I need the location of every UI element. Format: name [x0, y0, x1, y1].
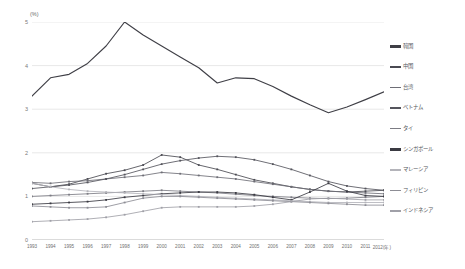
data-point-marker — [365, 196, 367, 198]
data-point-marker — [309, 198, 311, 200]
data-point-marker — [161, 154, 163, 156]
data-point-marker — [87, 182, 89, 184]
data-point-marker — [328, 181, 330, 183]
data-point-marker — [216, 191, 218, 193]
line-chart: (%) 543210 19931994199519961997199819992… — [0, 0, 465, 269]
data-point-marker — [124, 202, 126, 204]
data-point-marker — [272, 196, 274, 198]
data-point-marker — [142, 168, 144, 170]
data-point-marker — [272, 200, 274, 202]
legend-item-label: タイ — [403, 126, 413, 131]
series-line — [32, 156, 384, 190]
y-axis-tick-label: 1 — [25, 193, 28, 199]
series-line — [32, 183, 384, 202]
data-point-marker — [87, 201, 89, 203]
data-point-marker — [365, 192, 367, 194]
legend-color-swatch — [390, 148, 401, 151]
data-point-marker — [50, 206, 52, 208]
data-point-marker — [179, 156, 181, 158]
data-point-marker — [346, 202, 348, 204]
x-axis-tick-label: 2003 — [212, 244, 222, 249]
legend-color-swatch — [390, 169, 401, 171]
legend-item[interactable]: マレーシア — [390, 160, 465, 181]
x-axis-tick-label: 1998 — [120, 244, 130, 249]
data-point-marker — [365, 188, 367, 190]
data-point-marker — [328, 190, 330, 192]
y-axis-tick-label: 0 — [25, 237, 28, 243]
legend-item[interactable]: フィリピン — [390, 180, 465, 201]
data-point-marker — [346, 198, 348, 200]
data-point-marker — [124, 192, 126, 194]
data-point-marker — [87, 178, 89, 180]
data-point-marker — [68, 194, 70, 196]
legend-color-swatch — [390, 107, 401, 110]
data-point-marker — [235, 174, 237, 176]
x-axis-tick-label: 2006 — [268, 244, 278, 249]
data-point-marker — [87, 193, 89, 195]
data-point-marker — [253, 205, 255, 207]
data-point-marker — [105, 206, 107, 208]
data-point-marker — [105, 216, 107, 218]
x-axis-tick-label: 2008 — [305, 244, 315, 249]
x-axis-tick-label: 2007 — [286, 244, 296, 249]
data-point-marker — [365, 204, 367, 206]
legend-color-swatch — [390, 128, 401, 130]
data-point-marker — [383, 204, 384, 206]
data-point-marker — [142, 210, 144, 212]
legend-item[interactable]: タイ — [390, 118, 465, 139]
x-axis-tick-label: 1995 — [64, 244, 74, 249]
data-point-marker — [253, 199, 255, 201]
legend-item[interactable]: インドネシア — [390, 201, 465, 222]
data-point-marker — [253, 159, 255, 161]
data-point-marker — [198, 206, 200, 208]
y-axis-unit-label: (%) — [30, 11, 39, 17]
y-axis-tick-label: 4 — [25, 63, 28, 69]
legend-item-label: シンガポール — [403, 147, 432, 152]
data-point-marker — [32, 221, 33, 223]
data-point-marker — [235, 156, 237, 158]
data-point-marker — [68, 184, 70, 186]
data-point-marker — [328, 182, 330, 184]
legend-item-label: 韓国 — [403, 44, 413, 49]
data-point-marker — [235, 178, 237, 180]
y-axis: 543210 — [0, 22, 28, 240]
data-point-marker — [105, 199, 107, 201]
data-point-marker — [290, 168, 292, 170]
data-point-marker — [32, 205, 33, 207]
legend-item[interactable]: 中国 — [390, 57, 465, 78]
legend-item[interactable]: ベトナム — [390, 98, 465, 119]
data-point-marker — [309, 202, 311, 204]
data-point-marker — [124, 174, 126, 176]
data-point-marker — [383, 193, 384, 195]
data-point-marker — [105, 173, 107, 175]
x-axis-tick-label: 2010 — [342, 244, 352, 249]
data-point-marker — [179, 160, 181, 162]
data-point-marker — [216, 168, 218, 170]
legend-item[interactable]: 台湾 — [390, 77, 465, 98]
legend-color-swatch — [390, 45, 401, 48]
data-point-marker — [346, 190, 348, 192]
legend-item[interactable]: 韓国 — [390, 36, 465, 57]
legend-item[interactable]: シンガポール — [390, 139, 465, 160]
data-point-marker — [142, 195, 144, 197]
data-point-marker — [179, 190, 181, 192]
data-point-marker — [50, 182, 52, 184]
legend-item-label: インドネシア — [403, 208, 432, 213]
data-point-marker — [346, 185, 348, 187]
legend-color-swatch — [390, 210, 401, 212]
x-axis-tick-label: 1994 — [45, 244, 55, 249]
data-point-marker — [198, 157, 200, 159]
x-axis-tick-label: 1996 — [82, 244, 92, 249]
data-point-marker — [68, 202, 70, 204]
series-line — [32, 155, 384, 192]
data-point-marker — [87, 190, 89, 192]
legend-color-swatch — [390, 87, 401, 89]
x-axis-tick-label: 2004 — [231, 244, 241, 249]
data-point-marker — [365, 195, 367, 197]
x-axis-tick-label: 1997 — [101, 244, 111, 249]
legend-item-label: フィリピン — [403, 188, 428, 193]
x-axis-tick-label: 2011 — [361, 244, 371, 249]
data-point-marker — [142, 175, 144, 177]
data-point-marker — [216, 197, 218, 199]
data-point-marker — [124, 214, 126, 216]
